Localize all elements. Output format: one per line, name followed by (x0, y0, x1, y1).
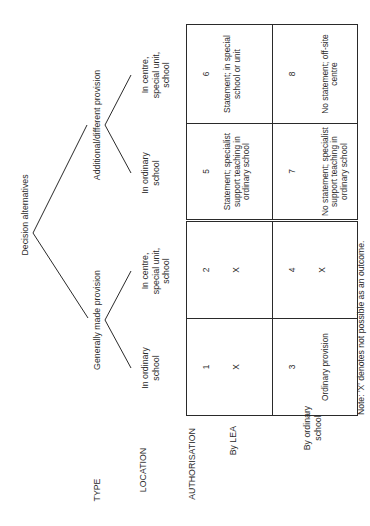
grid-cell-4: 4 X (272, 221, 358, 319)
cell-not-possible-mark: X (317, 222, 327, 318)
cell-number: 8 (287, 25, 297, 123)
cell-number: 4 (287, 222, 297, 318)
branch-to-additional-different (33, 125, 87, 233)
cell-description: Statement; in special school or unit (223, 27, 242, 121)
cell-description: Ordinary provision (321, 321, 331, 413)
cell-not-possible-mark: X (231, 222, 241, 318)
cell-description: Statement; specialist support teaching i… (223, 126, 252, 217)
row-header-location: LOCATION (138, 448, 149, 492)
row-header-type: TYPE (92, 479, 103, 502)
grid-row-by-ordinary-school: 3 Ordinary provision 4 X 7 No statement;… (272, 25, 358, 416)
cell-description: No statement; off-site centre (321, 27, 340, 121)
cell-number: 7 (287, 124, 297, 219)
branch-additional-ordinary (105, 125, 131, 173)
grid-cell-3: 3 Ordinary provision (272, 319, 358, 416)
type-generally-made-provision: Generally made provision (92, 270, 103, 370)
outcome-grid: 1 X 2 X 5 Statement; specialist support … (186, 24, 358, 416)
branch-generally-centre (105, 271, 131, 320)
grid-cell-8: 8 No statement; off-site centre (272, 25, 358, 124)
location-additional-centre-unit-school: In centre, special unit, school (140, 45, 172, 105)
row-header-by-lea: By LEA (228, 426, 239, 455)
branch-additional-centre (105, 75, 131, 125)
footnote: Note: 'X' denotes not possible as an out… (356, 241, 366, 415)
cell-number: 3 (287, 319, 297, 415)
row-header-authorisation: AUTHORISATION (187, 428, 198, 500)
cell-description: No statement; specialist support teachin… (321, 126, 350, 217)
grid-cell-7: 7 No statement; specialist support teach… (272, 124, 358, 221)
type-additional-different-provision: Additional/different provision (92, 70, 103, 180)
cell-number: 6 (201, 25, 211, 123)
cell-number: 1 (201, 319, 211, 415)
branch-generally-ordinary (105, 320, 131, 368)
grid-cell-2: 2 X (187, 221, 273, 319)
cell-not-possible-mark: X (231, 319, 241, 415)
cell-number: 5 (201, 124, 211, 219)
branch-to-generally-made (33, 233, 88, 318)
grid-row-by-lea: 1 X 2 X 5 Statement; specialist support … (187, 25, 273, 416)
location-generally-ordinary-school: In ordinary school (140, 346, 161, 390)
diagram-title: Decision alternatives (20, 174, 31, 255)
location-generally-centre-unit-school: In centre, special unit, school (140, 241, 172, 301)
location-additional-ordinary-school: In ordinary school (140, 151, 161, 195)
rotated-diagram-page: Decision alternatives TYPE LOCATION AUTH… (0, 0, 370, 526)
grid-cell-5: 5 Statement; specialist support teaching… (187, 124, 273, 221)
grid-cell-1: 1 X (187, 319, 273, 416)
grid-cell-6: 6 Statement; in special school or unit (187, 25, 273, 124)
cell-number: 2 (201, 222, 211, 318)
